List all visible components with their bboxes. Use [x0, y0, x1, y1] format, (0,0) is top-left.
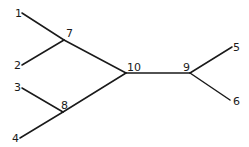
edge-9-6 [190, 73, 230, 100]
node-label-3: 3 [14, 81, 21, 94]
node-label-7: 7 [66, 27, 73, 40]
node-label-2: 2 [14, 59, 21, 72]
node-label-1: 1 [15, 7, 22, 20]
node-label-8: 8 [61, 99, 68, 112]
edge-7-10 [64, 40, 126, 73]
edge-8-10 [63, 73, 126, 112]
edge-1-7 [22, 13, 64, 40]
edge-2-7 [22, 40, 64, 65]
edges-layer [20, 13, 232, 138]
node-label-4: 4 [12, 132, 19, 145]
node-label-9: 9 [183, 61, 190, 74]
tree-diagram-svg: 12345678910 [0, 0, 249, 147]
tree-diagram: 12345678910 [0, 0, 249, 147]
edge-9-5 [190, 47, 232, 73]
edge-3-8 [22, 88, 63, 112]
node-label-5: 5 [233, 41, 240, 54]
node-label-6: 6 [233, 95, 240, 108]
node-label-10: 10 [127, 61, 141, 74]
edge-4-8 [20, 112, 63, 138]
